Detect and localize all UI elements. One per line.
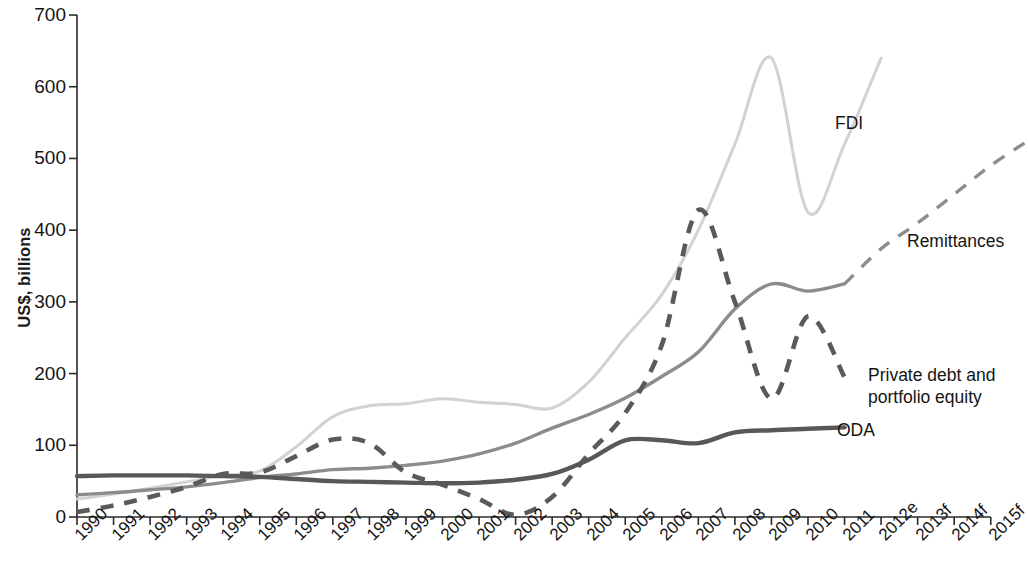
series-label-remittances: Remittances <box>907 231 1004 252</box>
data-series-group <box>77 57 1027 515</box>
plot-area <box>0 0 1028 585</box>
series-label-fdi: FDI <box>835 113 863 134</box>
series-line-private-debt-and-portfolio-equity <box>77 210 845 515</box>
series-label-private-debt-line1: Private debt and <box>868 365 995 386</box>
series-line-remittances-forecast <box>845 141 1028 284</box>
series-label-private-debt-line2: portfolio equity <box>868 387 982 408</box>
series-line-oda <box>77 427 845 483</box>
series-label-oda: ODA <box>837 420 875 441</box>
axes <box>69 15 991 525</box>
series-line-remittances <box>77 283 845 494</box>
line-chart: US$, billions 0100200300400500600700 199… <box>0 0 1028 585</box>
